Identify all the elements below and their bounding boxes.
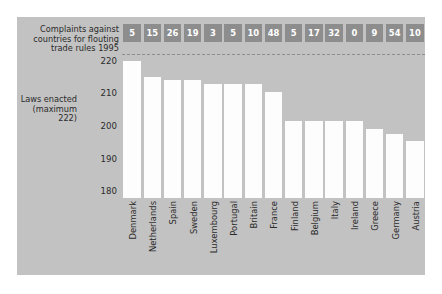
- x-axis-label-text: Portugal: [229, 201, 239, 236]
- complaint-badge: 32: [325, 24, 343, 42]
- x-axis-label: France: [265, 199, 283, 269]
- bar: [305, 121, 323, 198]
- complaint-badge: 0: [346, 24, 364, 42]
- y-axis-tick: 220: [79, 56, 117, 66]
- chart-panel: Complaints against countries for floutin…: [17, 17, 425, 275]
- x-axis-label: Luxembourg: [204, 199, 222, 269]
- bar: [164, 80, 182, 198]
- x-axis-label-text: Austria: [411, 201, 421, 231]
- complaints-badge-row: 515261935104851732095410: [122, 24, 425, 44]
- bar: [406, 141, 424, 198]
- x-axis-label: Greece: [366, 199, 384, 269]
- x-axis-label: Britain: [245, 199, 263, 269]
- maximum-threshold-line: [122, 54, 425, 55]
- complaint-badge: 5: [285, 24, 303, 42]
- x-axis-label-text: Finland: [290, 201, 300, 231]
- x-axis-label: Sweden: [184, 199, 202, 269]
- x-axis-label: Spain: [164, 199, 182, 269]
- complaint-badge: 15: [144, 24, 162, 42]
- bar: [346, 121, 364, 198]
- x-axis-label-text: Italy: [330, 201, 340, 219]
- x-axis-label: Belgium: [305, 199, 323, 269]
- bar: [386, 134, 404, 198]
- x-axis-label-text: Greece: [370, 201, 380, 231]
- x-axis-label-text: Netherlands: [148, 201, 158, 252]
- complaint-badge: 17: [305, 24, 323, 42]
- complaint-badge: 9: [366, 24, 384, 42]
- x-axis-label-text: Belgium: [310, 201, 320, 235]
- x-axis-label-text: Germany: [391, 201, 401, 240]
- y-axis-title: Laws enacted (maximum 222): [17, 95, 77, 124]
- y-axis-tick: 190: [79, 154, 117, 164]
- bar: [204, 84, 222, 198]
- complaint-badge: 54: [386, 24, 404, 42]
- bar: [366, 129, 384, 198]
- x-axis-label-text: Sweden: [189, 201, 199, 234]
- y-axis-tick: 180: [79, 186, 117, 196]
- complaint-badge: 48: [265, 24, 283, 42]
- x-axis-label: Finland: [285, 199, 303, 269]
- bar: [184, 80, 202, 198]
- complaint-badge: 19: [184, 24, 202, 42]
- complaint-badge: 5: [123, 24, 141, 42]
- bar: [265, 92, 283, 198]
- y-axis-tick: 210: [79, 88, 117, 98]
- bar: [285, 121, 303, 198]
- complaint-badge: 5: [224, 24, 242, 42]
- x-axis-label: Ireland: [346, 199, 364, 269]
- x-axis-label: Portugal: [224, 199, 242, 269]
- x-axis-label: Austria: [406, 199, 424, 269]
- y-axis-tick: 200: [79, 121, 117, 131]
- x-axis-label-text: Spain: [168, 201, 178, 224]
- bar: [123, 61, 141, 198]
- x-axis-label-text: Britain: [249, 201, 259, 229]
- complaint-badge: 26: [164, 24, 182, 42]
- plot-area: [122, 51, 425, 198]
- complaint-badge: 3: [204, 24, 222, 42]
- x-axis-label: Germany: [386, 199, 404, 269]
- x-axis-label-text: Ireland: [350, 201, 360, 230]
- x-axis-label: Denmark: [123, 199, 141, 269]
- x-axis-label: Netherlands: [144, 199, 162, 269]
- x-axis-label-text: Denmark: [128, 201, 138, 240]
- complaint-badge: 10: [245, 24, 263, 42]
- x-axis-label: Italy: [325, 199, 343, 269]
- x-axis-label-text: France: [269, 201, 279, 229]
- bar: [325, 121, 343, 198]
- bar: [144, 77, 162, 198]
- bar: [245, 84, 263, 198]
- bar: [224, 84, 242, 198]
- complaints-caption: Complaints against countries for floutin…: [22, 25, 119, 54]
- y-axis: 220210200190180: [79, 51, 117, 198]
- x-axis: DenmarkNetherlandsSpainSwedenLuxembourgP…: [122, 199, 425, 271]
- x-axis-label-text: Luxembourg: [209, 201, 219, 253]
- complaint-badge: 10: [406, 24, 424, 42]
